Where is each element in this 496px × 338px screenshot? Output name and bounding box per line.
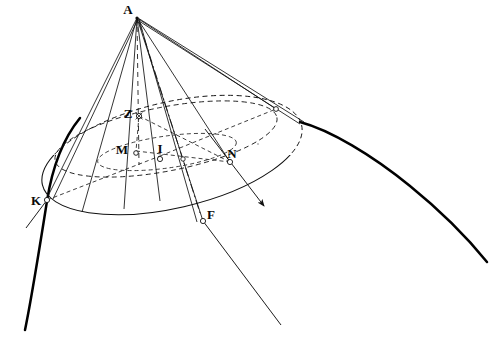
label-A: A: [123, 2, 133, 17]
marker-K[interactable]: [44, 197, 49, 202]
conic-section-diagram: A Z M I N K F: [0, 0, 496, 338]
label-I: I: [157, 141, 162, 156]
canvas-background: [0, 0, 496, 338]
label-Z: Z: [124, 106, 133, 121]
marker-hidden-rim-point[interactable]: [274, 107, 279, 112]
marker-chord-point[interactable]: [181, 157, 185, 161]
label-M: M: [116, 142, 128, 157]
geometry-figure: A Z M I N K F: [0, 0, 496, 338]
marker-M[interactable]: [134, 151, 139, 156]
label-F: F: [207, 207, 215, 222]
label-N: N: [227, 146, 237, 161]
marker-F[interactable]: [200, 218, 205, 223]
speck-artifact: [257, 143, 259, 145]
marker-I[interactable]: [157, 156, 162, 161]
marker-A[interactable]: [135, 16, 138, 19]
label-K: K: [31, 193, 42, 208]
